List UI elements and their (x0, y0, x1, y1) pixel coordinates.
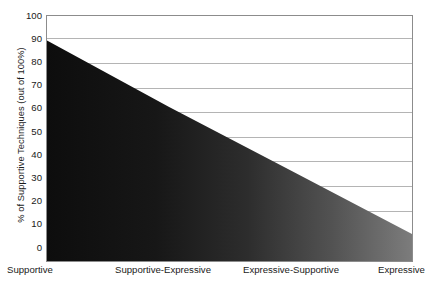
y-tick-label: 70 (16, 80, 42, 90)
chart-figure: % of Supportive Techniques (out of 100%)… (0, 0, 439, 284)
y-tick-label: 10 (16, 219, 42, 229)
x-tick-label: Expressive-Supportive (243, 265, 339, 275)
x-tick-label: Supportive-Expressive (115, 265, 211, 275)
y-tick-label: 40 (16, 150, 42, 160)
x-tick-label: Expressive (378, 265, 425, 275)
y-tick-label: 30 (16, 173, 42, 183)
y-axis-tick-labels: 100 90 80 70 60 50 40 30 20 10 0 (14, 0, 42, 284)
x-tick-label: Supportive (7, 265, 53, 275)
y-tick-label: 100 (16, 11, 42, 21)
area-series (47, 16, 412, 261)
y-tick-label: 60 (16, 103, 42, 113)
y-tick-label: 0 (16, 243, 42, 253)
y-tick-label: 80 (16, 57, 42, 67)
y-tick-label: 90 (16, 34, 42, 44)
x-axis-tick-labels: Supportive Supportive-Expressive Express… (0, 265, 439, 281)
plot-area (46, 15, 413, 262)
y-tick-label: 50 (16, 127, 42, 137)
y-tick-label: 20 (16, 196, 42, 206)
